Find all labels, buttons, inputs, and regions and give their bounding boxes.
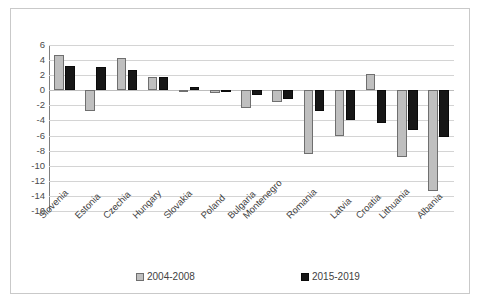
bar-group	[174, 45, 205, 211]
bar	[315, 90, 325, 110]
y-tick-label--10: -10	[15, 161, 45, 171]
series-1-swatch	[136, 273, 144, 281]
x-axis-category-labels: SloveniaEstoniaCzechiaHungarySlovakiaPol…	[49, 213, 454, 271]
bar	[221, 90, 231, 92]
legend-label: 2004-2008	[147, 271, 195, 282]
bar	[190, 87, 200, 91]
y-tick-label-4: 4	[15, 55, 45, 65]
legend-item-2[interactable]: 2015-2019	[301, 271, 360, 282]
bar	[85, 90, 95, 111]
bar	[366, 74, 376, 91]
bar	[117, 58, 127, 90]
bar-group	[423, 45, 454, 211]
series-2-swatch	[301, 273, 309, 281]
bar	[65, 66, 75, 90]
y-tick-label-6: 6	[15, 40, 45, 50]
bar	[179, 90, 189, 92]
bar	[377, 90, 387, 122]
bar-group	[361, 45, 392, 211]
y-tick-label-0: 0	[15, 86, 45, 96]
plot-area	[49, 45, 454, 211]
bar	[159, 77, 169, 91]
bar	[439, 90, 449, 137]
bar	[252, 90, 262, 95]
bar	[241, 90, 251, 107]
bar-group	[392, 45, 423, 211]
bar	[272, 90, 282, 101]
bar	[128, 70, 138, 90]
bar	[397, 90, 407, 157]
y-tick-label--6: -6	[15, 131, 45, 141]
chart-frame: 6420-2-4-6-8-10-12-14-16 SloveniaEstonia…	[10, 8, 470, 294]
bar	[96, 67, 106, 90]
bar	[210, 90, 220, 93]
bar	[335, 90, 345, 135]
bar	[408, 90, 418, 129]
y-tick-label--2: -2	[15, 101, 45, 111]
chart-legend: 2004-20082015-2019	[11, 271, 469, 291]
y-tick-label--12: -12	[15, 176, 45, 186]
y-tick-label--14: -14	[15, 191, 45, 201]
y-tick-label--8: -8	[15, 146, 45, 156]
bar-group	[205, 45, 236, 211]
bar-group	[298, 45, 329, 211]
y-tick-label-2: 2	[15, 70, 45, 80]
bar	[304, 90, 314, 153]
bar	[148, 77, 158, 90]
bar-group	[49, 45, 80, 211]
bar	[428, 90, 438, 191]
bar-group	[111, 45, 142, 211]
legend-label: 2015-2019	[312, 271, 360, 282]
bar-group	[236, 45, 267, 211]
y-axis-tick-labels: 6420-2-4-6-8-10-12-14-16	[11, 45, 45, 211]
legend-item-1[interactable]: 2004-2008	[136, 271, 195, 282]
bar-group	[80, 45, 111, 211]
bar-group	[142, 45, 173, 211]
bar	[54, 55, 64, 90]
y-tick-label--4: -4	[15, 116, 45, 126]
bar-group	[329, 45, 360, 211]
bar	[346, 90, 356, 120]
bar	[283, 90, 293, 99]
